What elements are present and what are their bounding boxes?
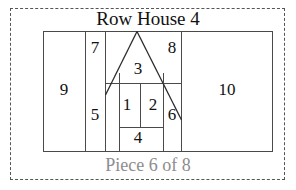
piece-label-3: 3 — [134, 59, 143, 78]
piece-label-4: 4 — [134, 128, 143, 147]
block-outer-frame — [44, 32, 273, 152]
piece-label-8: 8 — [168, 38, 177, 57]
piece-label-10: 10 — [219, 80, 236, 99]
piece-label-6: 6 — [168, 105, 177, 124]
piece-label-1: 1 — [123, 95, 132, 114]
screenshot-canvas: Row House 4 — [0, 0, 296, 190]
piece-label-5: 5 — [91, 105, 100, 124]
piece-label-9: 9 — [60, 80, 69, 99]
piece-label-7: 7 — [91, 38, 100, 57]
piece-label-2: 2 — [149, 95, 158, 114]
piece-caption: Piece 6 of 8 — [0, 154, 296, 176]
